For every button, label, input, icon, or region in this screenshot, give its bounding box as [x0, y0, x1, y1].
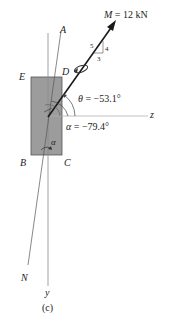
- point-label-c: C: [64, 158, 71, 168]
- axis-label-y: y: [45, 288, 49, 298]
- moment-label: M = 12 kN: [104, 10, 148, 20]
- moment-symbol: M: [104, 9, 112, 20]
- point-label-b: B: [20, 158, 26, 168]
- point-label-e: E: [19, 72, 25, 82]
- theta-symbol: θ: [78, 93, 83, 104]
- point-label-a: A: [60, 25, 66, 35]
- slope-run: 3: [97, 56, 101, 63]
- axis-label-z: z: [150, 110, 154, 120]
- theta-value: = −53.1°: [85, 93, 120, 104]
- theta-arc: [64, 95, 75, 116]
- alpha-symbol: α: [66, 121, 71, 132]
- slope-rise: 4: [105, 46, 109, 53]
- slope-hyp: 5: [90, 43, 94, 50]
- alpha-value: = −79.4°: [74, 121, 109, 132]
- alpha-label: α = −79.4°: [66, 122, 109, 132]
- figure-canvas: M = 12 kN 5 4 3 A D E B C N z y θ = −53.…: [0, 0, 173, 317]
- figure-caption: (c): [42, 303, 53, 313]
- point-label-d: D: [62, 67, 69, 77]
- alpha-inner-label: α: [51, 138, 56, 147]
- point-label-n: N: [21, 273, 28, 283]
- moment-value: = 12 kN: [115, 9, 148, 20]
- theta-label: θ = −53.1°: [78, 94, 121, 104]
- moment-arrowhead-icon: [107, 20, 116, 31]
